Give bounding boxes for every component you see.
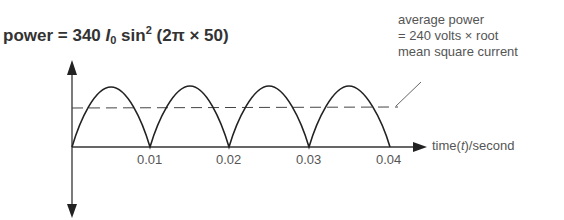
power-curve xyxy=(72,86,390,147)
x-tick-0.01: 0.01 xyxy=(137,152,162,167)
average-power-line xyxy=(72,107,398,108)
x-axis-arrow-icon xyxy=(413,142,427,152)
x-axis-label: time(t)/second xyxy=(432,138,514,153)
x-tick-0.04: 0.04 xyxy=(376,152,401,167)
x-tick-0.02: 0.02 xyxy=(216,152,241,167)
y-axis-down-arrow-icon xyxy=(67,204,77,218)
y-axis-up-arrow-icon xyxy=(67,60,77,75)
annotation-leader-line xyxy=(396,82,421,106)
power-graph xyxy=(0,0,564,220)
x-tick-0.03: 0.03 xyxy=(296,152,321,167)
